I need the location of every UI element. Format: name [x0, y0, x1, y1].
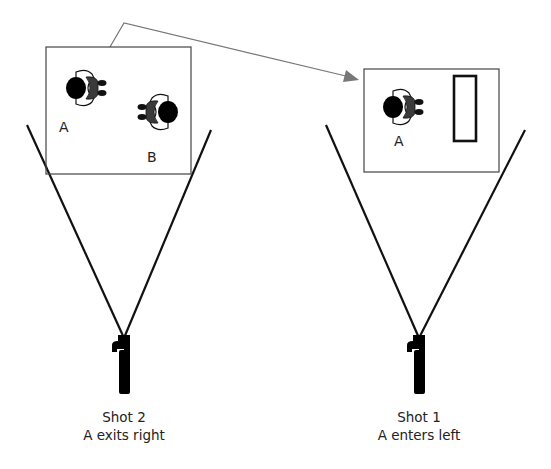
arrowhead-icon	[343, 70, 359, 82]
character-label-a: A	[59, 120, 69, 134]
shot-2-title: Shot 2	[24, 408, 224, 426]
shot-2-caption: Shot 2 A exits right	[24, 408, 224, 444]
shot-1-title: Shot 1	[319, 408, 519, 426]
shot-1-frame	[364, 69, 499, 172]
shot-2-description: A exits right	[24, 426, 224, 444]
camera-icon	[112, 335, 130, 394]
character-label-a: A	[394, 134, 404, 148]
shot-1-description: A enters left	[319, 426, 519, 444]
shot-1-caption: Shot 1 A enters left	[319, 408, 519, 444]
diagram-canvas	[0, 0, 551, 469]
camera-icon	[407, 335, 425, 394]
character-label-b: B	[147, 150, 157, 164]
shot-2-group	[27, 47, 211, 394]
shot-1-group	[326, 69, 525, 394]
